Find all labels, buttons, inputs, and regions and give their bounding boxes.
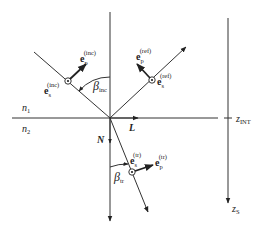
reflected-ray [110,47,186,118]
label-z-int: zINT [235,113,251,125]
transmitted-s-dot-icon [129,169,135,175]
incident-p-vector [70,64,86,79]
label-l: L [128,122,135,133]
interface-diagram: ep(inc) es(inc) βinc ep(ref) es(ref) n1 … [0,0,265,229]
label-beta-inc: βinc [92,79,107,93]
label-n1: n1 [22,102,30,114]
label-reflected-s: es(ref) [157,72,172,89]
label-incident-p: ep(inc) [80,49,96,66]
label-incident-s: es(inc) [44,81,59,98]
label-transmitted-s: es(tr) [130,151,141,168]
reflected-p-vector [137,64,150,78]
transmitted-p-vector [135,165,153,171]
label-beta-tr: βtr [113,170,125,184]
transmission-angle-arc [110,164,128,167]
label-n: N [96,134,105,145]
label-n2: n2 [22,123,30,135]
label-transmitted-p: ep(tr) [155,153,167,170]
label-z-s: zS [231,203,240,215]
label-reflected-p: ep(ref) [136,47,151,64]
